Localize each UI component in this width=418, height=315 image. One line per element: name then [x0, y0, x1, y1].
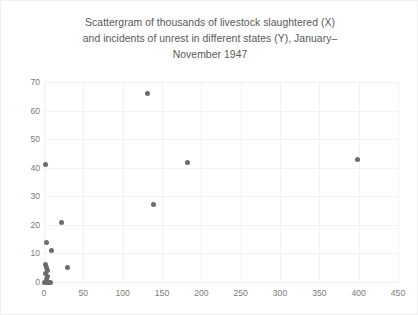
scatter-point: [145, 91, 150, 96]
x-tick-label: 50: [63, 289, 103, 298]
scatter-point: [185, 160, 190, 165]
gridline-horizontal: [44, 82, 398, 83]
scatter-point: [43, 162, 48, 167]
gridline-horizontal: [44, 253, 398, 254]
x-axis-tick-labels: 050100150200250300350400450: [1, 289, 418, 303]
gridline-horizontal: [44, 196, 398, 197]
x-tick-label: 200: [181, 289, 221, 298]
chart-figure: Scattergram of thousands of livestock sl…: [0, 0, 418, 315]
gridline-vertical: [123, 82, 124, 282]
gridline-vertical: [359, 82, 360, 282]
x-tick-label: 450: [378, 289, 418, 298]
gridline-horizontal: [44, 168, 398, 169]
scatter-point: [59, 220, 64, 225]
scatter-point: [151, 202, 156, 207]
x-tick-label: 350: [299, 289, 339, 298]
gridline-horizontal: [44, 111, 398, 112]
y-tick-label: 20: [12, 221, 40, 230]
scatter-point: [44, 240, 49, 245]
gridline-vertical: [398, 82, 399, 282]
y-axis-tick-labels: 010203040506070: [9, 1, 40, 315]
gridline-vertical: [319, 82, 320, 282]
y-tick-label: 10: [12, 249, 40, 258]
plot-area: [44, 82, 398, 282]
gridline-horizontal: [44, 139, 398, 140]
scatter-point: [355, 157, 360, 162]
scatter-point: [65, 265, 70, 270]
y-tick-label: 70: [12, 78, 40, 87]
y-tick-label: 40: [12, 164, 40, 173]
gridline-vertical: [44, 82, 45, 282]
gridline-vertical: [83, 82, 84, 282]
y-tick-label: 0: [12, 278, 40, 287]
x-tick-label: 250: [221, 289, 261, 298]
gridline-vertical: [162, 82, 163, 282]
scatter-point: [49, 248, 54, 253]
gridline-vertical: [280, 82, 281, 282]
gridline-vertical: [241, 82, 242, 282]
x-tick-label: 100: [103, 289, 143, 298]
gridline-horizontal: [44, 282, 398, 283]
gridline-vertical: [201, 82, 202, 282]
x-tick-label: 150: [142, 289, 182, 298]
chart-title: Scattergram of thousands of livestock sl…: [37, 15, 383, 63]
x-tick-label: 0: [24, 289, 64, 298]
y-tick-label: 60: [12, 107, 40, 116]
x-tick-label: 400: [339, 289, 379, 298]
x-tick-label: 300: [260, 289, 300, 298]
y-tick-label: 30: [12, 192, 40, 201]
gridline-horizontal: [44, 225, 398, 226]
y-tick-label: 50: [12, 135, 40, 144]
